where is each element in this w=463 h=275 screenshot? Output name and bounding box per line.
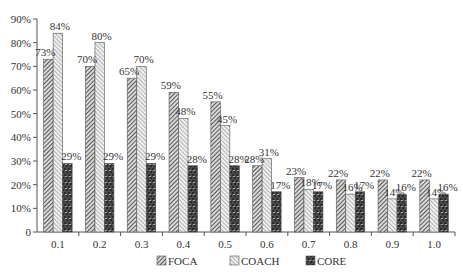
legend-swatch-icon: [157, 256, 166, 265]
bar-coach: [262, 159, 272, 232]
value-label: 23%: [286, 165, 306, 177]
bar-core: [188, 166, 198, 232]
x-tick-label: 1.0: [427, 238, 441, 250]
x-tick-label: 0.1: [51, 238, 65, 250]
x-tick-label: 0.6: [260, 238, 274, 250]
value-label: 70%: [77, 53, 97, 65]
x-tick-label: 0.4: [176, 238, 190, 250]
legend-swatch-icon: [306, 256, 315, 265]
bar-core: [272, 192, 282, 232]
x-tick-label: 0.9: [385, 238, 399, 250]
bar-chart: 010%20%30%40%50%60%70%80%90%0.10.20.30.4…: [0, 0, 463, 275]
value-label: 29%: [61, 150, 81, 162]
value-label: 45%: [217, 113, 237, 125]
value-label: 31%: [259, 146, 279, 158]
value-label: 65%: [119, 65, 139, 77]
chart-legend: FOCACOACHCORE: [157, 255, 347, 267]
x-tick-label: 0.5: [218, 238, 232, 250]
legend-item-core: CORE: [306, 255, 347, 267]
y-tick-label: 90%: [11, 13, 31, 25]
value-label: 16%: [438, 181, 458, 193]
value-label: 59%: [161, 79, 181, 91]
y-tick-label: 80%: [11, 37, 31, 49]
value-label: 73%: [35, 46, 55, 58]
bar-core: [439, 194, 449, 232]
bar-foca: [85, 66, 95, 232]
legend-item-coach: COACH: [230, 255, 280, 267]
y-tick-label: 0: [26, 226, 32, 238]
bar-coach: [137, 66, 147, 232]
x-tick-label: 0.3: [135, 238, 149, 250]
value-label: 22%: [328, 167, 348, 179]
value-label: 80%: [92, 30, 112, 42]
bar-core: [230, 166, 240, 232]
bar-foca: [44, 59, 54, 232]
bar-core: [313, 192, 323, 232]
bar-coach: [95, 43, 105, 232]
bar-coach: [53, 33, 63, 232]
x-tick-label: 0.7: [302, 238, 316, 250]
bar-core: [397, 194, 407, 232]
bar-coach: [346, 194, 356, 232]
value-label: 70%: [133, 53, 153, 65]
y-tick-label: 60%: [11, 84, 31, 96]
bar-coach: [220, 126, 230, 233]
value-label: 29%: [103, 150, 123, 162]
value-label: 84%: [50, 20, 70, 32]
value-label: 28%: [187, 153, 207, 165]
value-label: 17%: [354, 179, 374, 191]
value-label: 17%: [270, 179, 290, 191]
legend-item-foca: FOCA: [157, 255, 197, 267]
value-label: 29%: [145, 150, 165, 162]
legend-swatch-icon: [230, 256, 239, 265]
y-tick-label: 30%: [11, 155, 31, 167]
value-label: 17%: [312, 179, 332, 191]
x-tick-label: 0.8: [344, 238, 358, 250]
legend-label: FOCA: [168, 255, 197, 267]
y-tick-label: 50%: [11, 108, 31, 120]
value-label: 22%: [412, 167, 432, 179]
y-tick-label: 10%: [11, 202, 31, 214]
y-tick-label: 20%: [11, 179, 31, 191]
bar-coach: [429, 199, 439, 232]
y-tick-label: 40%: [11, 131, 31, 143]
y-tick-label: 70%: [11, 60, 31, 72]
chart-canvas: 010%20%30%40%50%60%70%80%90%0.10.20.30.4…: [0, 0, 463, 275]
chart-bars: [44, 33, 449, 232]
bar-coach: [388, 199, 398, 232]
legend-label: CORE: [317, 255, 347, 267]
bar-core: [63, 163, 73, 232]
bar-core: [146, 163, 156, 232]
x-tick-label: 0.2: [93, 238, 107, 250]
bar-foca: [127, 78, 137, 232]
value-label: 48%: [175, 105, 195, 117]
value-label: 55%: [203, 89, 223, 101]
bar-coach: [304, 189, 314, 232]
bar-core: [355, 192, 365, 232]
bar-core: [104, 163, 114, 232]
value-label: 16%: [396, 181, 416, 193]
bar-coach: [179, 118, 189, 232]
bar-foca: [253, 166, 263, 232]
value-label: 22%: [370, 167, 390, 179]
legend-label: COACH: [241, 255, 280, 267]
